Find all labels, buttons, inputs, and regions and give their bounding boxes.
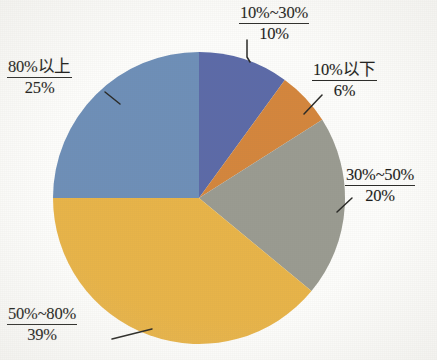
slice-label-under-10-category: 10%以下 — [312, 61, 377, 81]
slice-label-10-30-value: 10% — [239, 24, 309, 43]
slice-label-over-80-value: 25% — [7, 78, 72, 97]
slice-label-over-80-category: 80%以上 — [7, 58, 72, 78]
pie-texture-overlay — [53, 52, 345, 344]
slice-label-50-80: 50%~80% 39% — [7, 305, 77, 344]
slice-label-50-80-value: 39% — [7, 325, 77, 344]
slice-label-30-50-value: 20% — [345, 186, 415, 205]
slice-label-30-50-category: 30%~50% — [345, 166, 415, 186]
slice-label-under-10: 10%以下 6% — [312, 61, 377, 100]
slice-label-under-10-value: 6% — [312, 81, 377, 100]
slice-label-30-50: 30%~50% 20% — [345, 166, 415, 205]
leader-line-10-30 — [247, 40, 250, 62]
slice-label-10-30: 10%~30% 10% — [239, 4, 309, 43]
pie-chart-figure: 10%~30% 10% 10%以下 6% 30%~50% 20% 50%~80%… — [0, 0, 437, 360]
slice-label-50-80-category: 50%~80% — [7, 305, 77, 325]
slice-label-over-80: 80%以上 25% — [7, 58, 72, 97]
slice-label-10-30-category: 10%~30% — [239, 4, 309, 24]
